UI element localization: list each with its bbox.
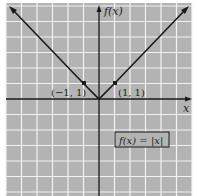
x-axis-label: x bbox=[183, 102, 190, 115]
point-marker-right bbox=[113, 81, 117, 85]
point-marker-left bbox=[82, 81, 86, 85]
point-label-left: (−1, 1) bbox=[51, 87, 86, 98]
point-label-right: (1, 1) bbox=[118, 87, 145, 98]
y-axis-label: f(x) bbox=[103, 5, 123, 18]
equation-label: f(x) = |x| bbox=[118, 135, 163, 147]
abs-value-graph: f(x) x (−1, 1) (1, 1) f(x) = |x| bbox=[0, 0, 197, 196]
